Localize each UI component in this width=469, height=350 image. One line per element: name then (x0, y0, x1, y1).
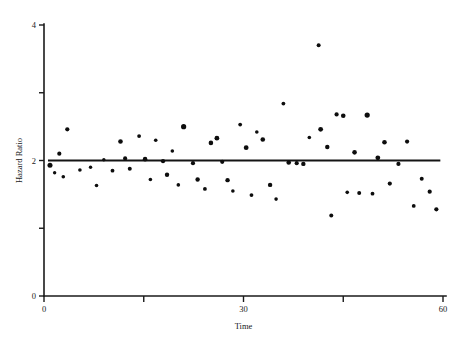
data-point (412, 204, 416, 208)
data-point (78, 168, 82, 172)
data-point (171, 149, 175, 153)
data-point (191, 161, 195, 165)
data-point (375, 155, 380, 160)
x-axis-tick-label: 60 (439, 304, 448, 314)
data-point (371, 192, 375, 196)
data-point (143, 157, 148, 162)
data-point (137, 134, 141, 138)
data-point (420, 177, 424, 181)
y-axis-title: Hazard Ratio (14, 138, 24, 183)
data-point (388, 181, 392, 185)
data-point (268, 183, 272, 187)
data-point (434, 207, 438, 211)
data-point (118, 139, 123, 144)
data-point (382, 140, 387, 145)
data-point (47, 163, 52, 168)
data-point (318, 127, 323, 132)
data-point (53, 171, 56, 174)
data-point (231, 189, 235, 193)
data-point (428, 190, 432, 194)
data-point (102, 158, 105, 161)
data-point (123, 156, 127, 160)
data-point (352, 150, 357, 155)
y-axis-tick-label: 0 (32, 291, 36, 301)
data-point (255, 130, 259, 134)
scatter-plot-figure: 02403060TimeHazard Ratio (0, 0, 469, 350)
data-point (89, 166, 92, 169)
axes-layer (39, 24, 446, 302)
x-axis-title: Time (235, 321, 253, 331)
data-point (325, 145, 329, 149)
data-point (154, 138, 158, 142)
data-point (177, 183, 181, 187)
data-point (128, 167, 132, 171)
data-point (295, 161, 299, 165)
data-point (308, 136, 312, 140)
data-point (317, 43, 321, 47)
axis-labels-layer: 02403060TimeHazard Ratio (14, 20, 447, 331)
y-axis-tick-label: 4 (32, 20, 37, 30)
data-point (220, 160, 224, 164)
data-point (95, 184, 99, 188)
data-point (405, 139, 409, 143)
data-point (225, 178, 229, 182)
data-point (282, 102, 286, 106)
data-point (215, 136, 220, 141)
data-point (238, 123, 242, 127)
data-point (341, 113, 346, 118)
data-point (335, 112, 339, 116)
x-axis-tick-label: 30 (239, 304, 248, 314)
data-point (357, 191, 361, 195)
data-point (195, 177, 199, 181)
data-point (181, 124, 186, 129)
y-axis-tick-label: 2 (32, 156, 36, 166)
data-point (203, 187, 207, 191)
data-point (365, 113, 370, 118)
data-point (274, 197, 278, 201)
data-point (301, 162, 305, 166)
data-point (345, 191, 349, 195)
data-point (250, 193, 254, 197)
data-point (329, 213, 333, 217)
data-point (149, 178, 153, 182)
data-point (111, 169, 115, 173)
data-point (286, 160, 291, 165)
data-point (244, 145, 249, 150)
data-point (65, 127, 69, 131)
data-point (165, 173, 169, 177)
x-axis-tick-label: 0 (42, 304, 46, 314)
plot-canvas: 02403060TimeHazard Ratio (0, 0, 469, 350)
data-point (61, 175, 65, 179)
data-point (57, 152, 61, 156)
data-point (161, 159, 165, 163)
data-point (396, 162, 400, 166)
data-point (209, 141, 214, 146)
data-point (260, 137, 265, 142)
data-points-layer (47, 43, 438, 217)
